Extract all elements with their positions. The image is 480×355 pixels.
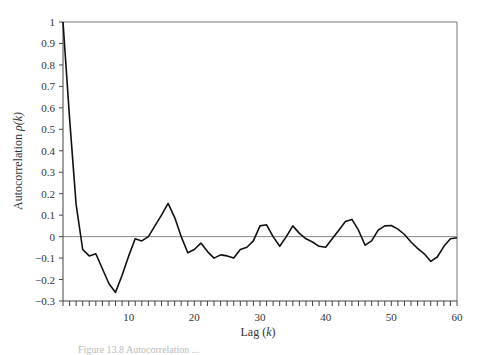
x-tick-label: 40 [320,311,332,323]
y-tick-label: 1 [50,16,56,28]
y-tick-label: −0.2 [35,274,55,286]
y-tick-label: 0.8 [41,59,55,71]
plot-frame [63,22,457,301]
y-tick-label: 0.6 [41,102,55,114]
y-tick-label: −0.3 [35,295,55,307]
autocorrelation-chart: −0.3−0.2−0.100.10.20.30.40.50.60.70.80.9… [0,0,480,355]
y-axis: −0.3−0.2−0.100.10.20.30.40.50.60.70.80.9… [35,16,63,307]
y-tick-label: 0.7 [41,80,55,92]
x-tick-label: 30 [255,311,267,323]
figure-caption: Figure 13.8 Autocorrelation ... [78,344,199,355]
x-tick-label: 20 [189,311,201,323]
y-tick-label: 0.3 [41,166,55,178]
x-tick-label: 60 [452,311,464,323]
y-tick-label: 0.4 [41,145,55,157]
y-tick-label: 0.2 [41,188,55,200]
autocorrelation-series [63,22,457,292]
y-tick-label: −0.1 [35,252,55,264]
y-tick-label: 0.5 [41,123,55,135]
x-tick-label: 10 [123,311,135,323]
autocorrelation-line [63,22,457,292]
y-tick-label: 0.9 [41,37,55,49]
x-axis-title: Lag (k) [241,325,276,339]
x-tick-label: 50 [386,311,398,323]
y-tick-label: 0 [50,231,56,243]
y-tick-label: 0.1 [41,209,55,221]
x-axis: 102030405060 [63,301,463,323]
y-axis-title: Autocorrelation ρ(k) [11,112,25,210]
